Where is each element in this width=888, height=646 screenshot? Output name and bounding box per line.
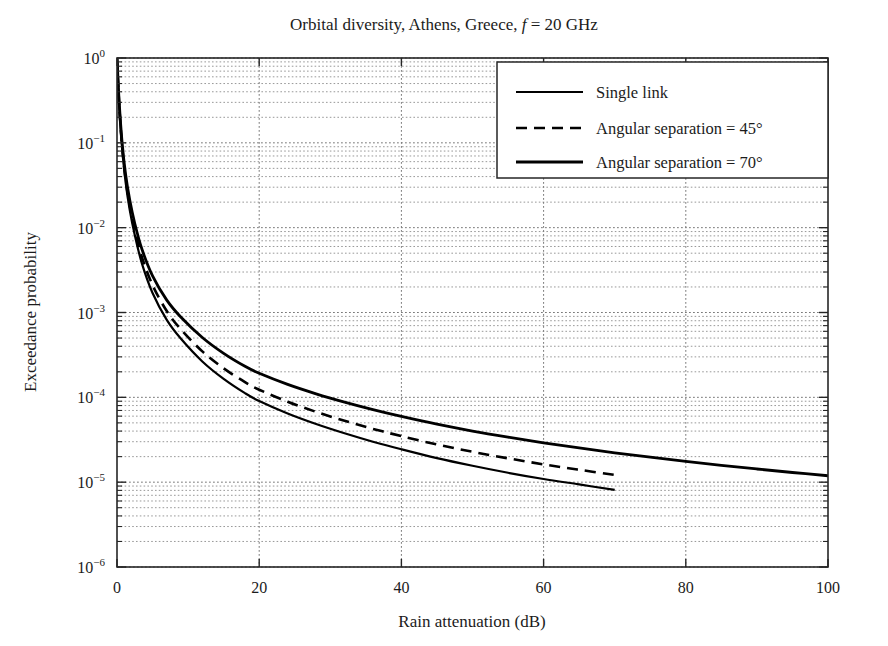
chart-title: Orbital diversity, Athens, Greece, f = 2… <box>290 15 598 34</box>
y-axis-label: Exceedance probability <box>21 232 40 393</box>
y-tick-label: 10−3 <box>77 302 105 322</box>
y-tick-label: 10−1 <box>77 132 105 152</box>
x-tick-label: 80 <box>678 579 694 596</box>
x-tick-label: 0 <box>113 579 121 596</box>
x-tick-labels: 020406080100 <box>113 579 840 596</box>
legend-item-label: Single link <box>596 83 669 102</box>
y-tick-label: 10−5 <box>77 471 105 491</box>
x-tick-label: 100 <box>816 579 840 596</box>
y-tick-label: 10−6 <box>77 556 105 576</box>
legend[interactable]: Single linkAngular separation = 45°Angul… <box>497 62 828 178</box>
x-tick-label: 20 <box>251 579 267 596</box>
legend-item-label: Angular separation = 45° <box>596 119 763 138</box>
y-tick-label: 10−2 <box>77 217 105 237</box>
y-tick-label: 10−4 <box>77 386 105 406</box>
y-tick-labels: 10010−110−210−310−410−510−6 <box>77 47 105 576</box>
figure-container: Orbital diversity, Athens, Greece, f = 2… <box>0 0 888 646</box>
x-tick-label: 40 <box>393 579 409 596</box>
y-tick-label: 100 <box>84 47 106 67</box>
x-axis-label: Rain attenuation (dB) <box>398 612 545 631</box>
x-tick-label: 60 <box>536 579 552 596</box>
chart-canvas: Orbital diversity, Athens, Greece, f = 2… <box>0 0 888 646</box>
legend-item-label: Angular separation = 70° <box>596 153 763 172</box>
